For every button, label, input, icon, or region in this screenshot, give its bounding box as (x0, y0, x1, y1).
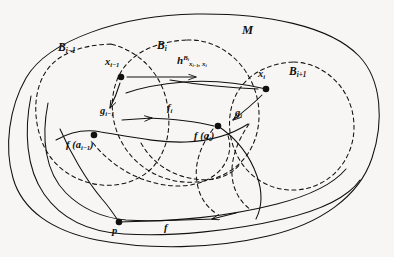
point-f-a-cur (215, 123, 222, 130)
manifold-diagram: M Bi−1 Bi Bi+1 xi−1 xi hBixi−1, xi gi−1 … (0, 0, 394, 257)
arrow-f-i-tail (148, 118, 214, 126)
label-f-of-a-cur: f (ai) (194, 131, 214, 142)
point-x-prev (118, 74, 125, 81)
arrow-f-i (122, 118, 152, 120)
label-map-h: hBixi−1, xi (177, 55, 207, 68)
inner-band-outer (27, 96, 360, 235)
label-manifold-M: M (242, 24, 253, 37)
label-region-B-next: Bi+1 (289, 66, 306, 79)
label-region-B-prev: Bi−1 (58, 42, 76, 55)
curve-from-x-cur-left (126, 81, 266, 93)
label-point-p: p (112, 226, 117, 237)
label-map-f-i: fi (167, 103, 172, 114)
label-region-B-cur: Bi (157, 40, 167, 53)
inner-band-inner (45, 103, 346, 221)
label-map-g-cur: gi (235, 108, 242, 119)
label-map-f: f (164, 223, 168, 234)
label-point-x-cur: xi (258, 69, 265, 80)
diagram-canvas (0, 0, 394, 257)
point-f-a-prev (91, 132, 98, 139)
interior-dashed-lobes (93, 124, 251, 214)
point-x-cur (263, 86, 270, 93)
label-f-of-a-prev: f (ai−1) (66, 140, 94, 151)
label-point-x-prev: xi−1 (105, 57, 119, 68)
label-map-g-prev: gi−1 (100, 106, 114, 117)
